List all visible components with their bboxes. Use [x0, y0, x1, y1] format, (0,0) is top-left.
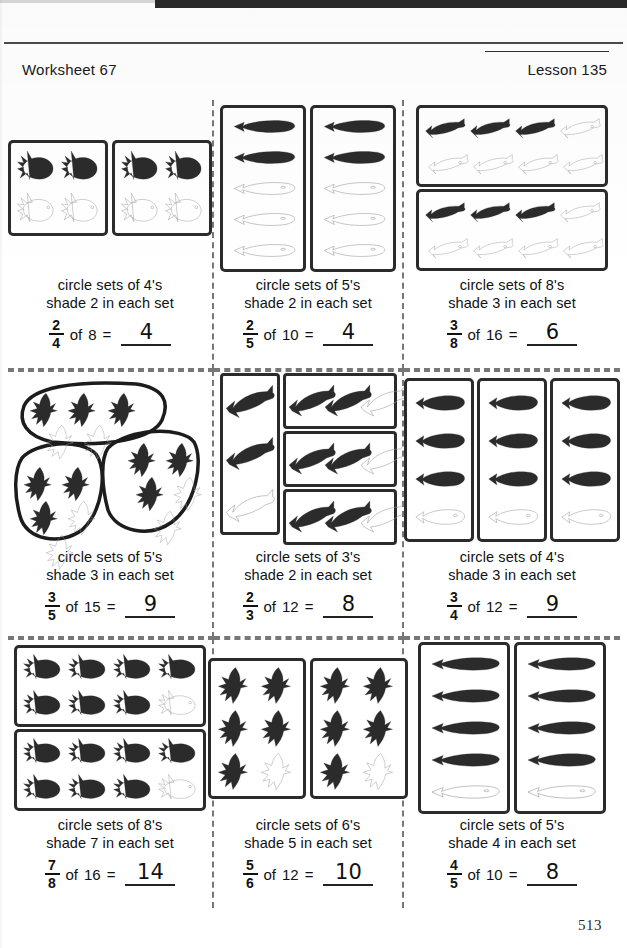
fish-unshaded	[560, 230, 605, 266]
instruction-line-1: circle sets of 5's	[244, 277, 372, 295]
answer-field[interactable]: 9	[527, 594, 577, 618]
fish-shaded	[483, 384, 541, 422]
fish-unshaded	[520, 776, 600, 808]
fish-shaded	[214, 750, 257, 793]
fish-shaded	[65, 686, 110, 722]
fish-shaded	[65, 770, 110, 806]
fish-unshaded	[317, 173, 389, 204]
fraction: 38	[447, 318, 462, 351]
fish-unshaded	[150, 508, 190, 548]
worksheet-title: Worksheet 67	[22, 61, 117, 78]
of-text: of	[264, 326, 277, 343]
fraction-denominator: 4	[448, 608, 460, 622]
fish-shaded	[20, 770, 65, 806]
equals-sign: =	[107, 866, 116, 883]
fish-shaded	[512, 194, 557, 230]
equals-sign: =	[305, 866, 314, 883]
fraction-numerator: 3	[448, 318, 460, 332]
fish-unshaded	[162, 188, 206, 230]
fish-unshaded	[470, 146, 515, 182]
instruction-line-2: shade 7 in each set	[46, 835, 174, 853]
fraction-denominator: 8	[448, 336, 460, 350]
fish-shaded	[65, 650, 110, 686]
fraction-denominator: 6	[244, 876, 256, 890]
fish-shaded	[58, 146, 102, 188]
circled-set	[416, 105, 608, 187]
fish-unshaded	[557, 194, 602, 230]
problem-instructions-p5: circle sets of 3'sshade 2 in each set	[244, 549, 372, 585]
instruction-line-1: circle sets of 4's	[448, 549, 576, 567]
problem-instructions-p3: circle sets of 8'sshade 3 in each set	[448, 277, 576, 313]
answer-field[interactable]: 10	[323, 862, 373, 886]
answer-field[interactable]: 4	[121, 322, 171, 346]
instruction-line-2: shade 3 in each set	[448, 567, 576, 585]
equation-p1: 24of8=4	[49, 318, 172, 351]
fish-shaded	[422, 110, 467, 146]
fish-shaded	[424, 712, 504, 744]
fraction-denominator: 8	[46, 876, 58, 890]
of-text: of	[468, 866, 481, 883]
answer-field[interactable]: 6	[527, 322, 577, 346]
fish-shaded	[20, 734, 65, 770]
fish-shaded	[483, 422, 541, 460]
circled-set	[208, 658, 306, 799]
circled-set	[310, 105, 396, 272]
fish-shaded	[214, 707, 257, 750]
total-value: 15	[84, 598, 101, 615]
equation-p9: 45of10=8	[447, 858, 578, 891]
fish-unshaded	[42, 422, 82, 462]
circled-set	[283, 373, 397, 429]
instruction-line-2: shade 5 in each set	[244, 835, 372, 853]
fish-shaded	[556, 384, 614, 422]
fish-shaded	[316, 664, 359, 707]
total-value: 10	[486, 866, 503, 883]
fish-shaded	[110, 770, 155, 806]
fish-unshaded	[358, 492, 410, 542]
fish-shaded	[223, 376, 277, 428]
fraction-numerator: 4	[448, 858, 460, 872]
fraction: 56	[243, 858, 258, 891]
fraction-denominator: 5	[46, 608, 58, 622]
fish-shaded	[467, 194, 512, 230]
circled-set	[8, 140, 108, 236]
problem-grid: circle sets of 4'sshade 2 in each set24o…	[8, 100, 620, 908]
fish-illustration-p2	[214, 100, 402, 276]
total-value: 16	[486, 326, 503, 343]
fish-shaded	[467, 110, 512, 146]
answer-field[interactable]: 8	[323, 594, 373, 618]
fish-shaded	[359, 707, 402, 750]
circled-set	[112, 140, 212, 236]
fish-illustration-p7	[8, 640, 212, 816]
total-value: 10	[282, 326, 299, 343]
equation-p2: 25of10=4	[243, 318, 374, 351]
instruction-line-2: shade 2 in each set	[244, 295, 372, 313]
answer-field[interactable]: 14	[125, 862, 175, 886]
answer-field[interactable]: 8	[527, 862, 577, 886]
equals-sign: =	[305, 326, 314, 343]
answer-field[interactable]: 9	[125, 594, 175, 618]
fraction: 45	[447, 858, 462, 891]
fish-shaded	[520, 680, 600, 712]
problem-instructions-p1: circle sets of 4'sshade 2 in each set	[46, 277, 174, 313]
equals-sign: =	[509, 326, 518, 343]
fraction-numerator: 2	[244, 590, 256, 604]
equation-p4: 35of15=9	[45, 590, 176, 623]
fraction-numerator: 7	[46, 858, 58, 872]
instruction-line-1: circle sets of 3's	[244, 549, 372, 567]
answer-field[interactable]: 4	[323, 322, 373, 346]
fish-shaded	[424, 680, 504, 712]
fish-shaded	[110, 650, 155, 686]
instruction-line-2: shade 2 in each set	[46, 295, 174, 313]
instruction-line-1: circle sets of 4's	[46, 277, 174, 295]
fish-shaded	[410, 422, 468, 460]
circled-set	[14, 645, 206, 727]
fish-shaded	[512, 110, 557, 146]
fish-shaded	[65, 734, 110, 770]
fish-shaded	[520, 744, 600, 776]
fish-unshaded	[515, 230, 560, 266]
problem-cell-p5: circle sets of 3'sshade 2 in each set23o…	[214, 370, 404, 638]
total-value: 12	[486, 598, 503, 615]
fish-unshaded	[556, 498, 614, 536]
of-text: of	[264, 866, 277, 883]
equation-p8: 56of12=10	[243, 858, 374, 891]
